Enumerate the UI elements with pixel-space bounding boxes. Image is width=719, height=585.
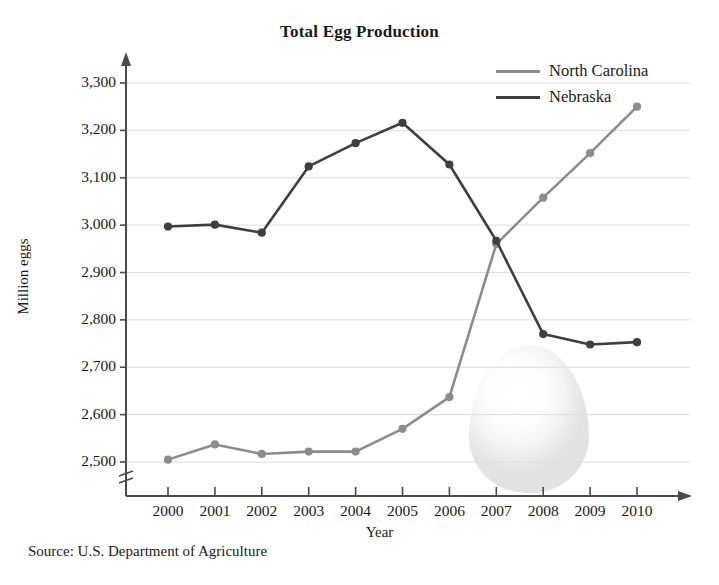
data-point-north-carolina-2003 [305,447,313,455]
data-point-nebraska-2004 [352,139,360,147]
data-point-north-carolina-2005 [398,425,406,433]
x-tick-label-2005: 2005 [377,502,429,520]
data-point-nebraska-2005 [398,119,406,127]
data-point-nebraska-2003 [305,162,313,170]
y-tick-label-2800: 2,800 [48,310,116,328]
y-tick-label-2900: 2,900 [48,263,116,281]
data-point-north-carolina-2000 [164,456,172,464]
y-axis-arrow-icon [121,52,131,66]
y-tick-label-3000: 3,000 [48,215,116,233]
x-tick-label-2009: 2009 [564,502,616,520]
y-tick-label-2600: 2,600 [48,405,116,423]
x-tick-label-2008: 2008 [517,502,569,520]
data-point-nebraska-2000 [164,222,172,230]
y-tick-label-2500: 2,500 [48,452,116,470]
x-axis-arrow-icon [678,491,692,501]
data-point-north-carolina-2008 [539,194,547,202]
chart-figure: Total Egg Production North Carolina Nebr… [0,0,719,585]
data-point-nebraska-2002 [258,229,266,237]
data-point-nebraska-2006 [445,160,453,168]
series-line-nebraska [168,123,637,345]
x-tick-label-2004: 2004 [330,502,382,520]
y-tick-label-3300: 3,300 [48,73,116,91]
y-tick-label-2700: 2,700 [48,357,116,375]
data-point-north-carolina-2010 [633,103,641,111]
y-tick-label-3200: 3,200 [48,120,116,138]
y-tick-label-3100: 3,100 [48,168,116,186]
data-point-nebraska-2009 [586,340,594,348]
x-axis-title-text: Year [366,524,394,540]
x-tick-label-2006: 2006 [423,502,475,520]
data-point-north-carolina-2009 [586,149,594,157]
x-tick-label-2010: 2010 [611,502,663,520]
axes [119,52,692,501]
data-series [164,103,641,464]
series-line-north-carolina [168,107,637,460]
data-point-nebraska-2001 [211,221,219,229]
x-tick-label-2001: 2001 [189,502,241,520]
data-point-north-carolina-2004 [352,447,360,455]
x-tick-label-2003: 2003 [283,502,335,520]
source-note: Source: U.S. Department of Agriculture [28,543,267,560]
x-axis-title: Year [0,524,719,541]
data-point-nebraska-2007 [492,237,500,245]
data-point-nebraska-2008 [539,330,547,338]
gridlines [126,83,690,462]
x-tick-label-2000: 2000 [142,502,194,520]
data-point-north-carolina-2001 [211,440,219,448]
x-tick-label-2002: 2002 [236,502,288,520]
data-point-north-carolina-2006 [445,393,453,401]
data-point-nebraska-2010 [633,338,641,346]
data-point-north-carolina-2002 [258,450,266,458]
y-axis-title: Million eggs [15,222,32,332]
x-tick-label-2007: 2007 [470,502,522,520]
